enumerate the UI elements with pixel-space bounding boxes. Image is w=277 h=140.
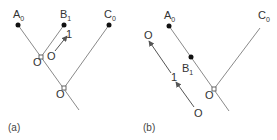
arrow-label-start: O xyxy=(194,107,203,119)
arrow-label-start: O xyxy=(47,50,56,62)
caption-b: (b) xyxy=(143,122,155,133)
label-o-lower: O xyxy=(56,88,65,100)
label-c: C0 xyxy=(258,9,270,23)
arrow-label-end: 1 xyxy=(66,28,72,40)
label-b: B1 xyxy=(60,8,71,22)
worldline-ab xyxy=(169,26,229,111)
label-a: A0 xyxy=(13,8,24,22)
arrow-icon xyxy=(176,82,194,107)
point-b1 xyxy=(62,23,67,28)
arrow-label-mid: 1 xyxy=(171,71,177,83)
point-c0 xyxy=(107,23,112,28)
panel-a: A0 B1 C0 O O O 1 (a) xyxy=(8,8,116,133)
point-b1 xyxy=(189,55,194,60)
worldline-c xyxy=(214,28,260,89)
point-a0 xyxy=(167,24,172,29)
label-b: B1 xyxy=(182,62,193,76)
caption-a: (a) xyxy=(8,122,20,133)
diagram-canvas: A0 B1 C0 O O O 1 (a) A0 B1 C0 O O 1 O (b… xyxy=(0,0,277,140)
arrow-icon xyxy=(149,41,171,73)
point-a0 xyxy=(16,23,21,28)
label-c: C0 xyxy=(104,8,116,22)
panel-b: A0 B1 C0 O O 1 O (b) xyxy=(143,9,270,133)
arrow-label-end: O xyxy=(144,29,153,41)
label-a: A0 xyxy=(164,9,175,23)
label-o-upper: O xyxy=(33,56,42,68)
label-o-vertex: O xyxy=(205,89,214,101)
